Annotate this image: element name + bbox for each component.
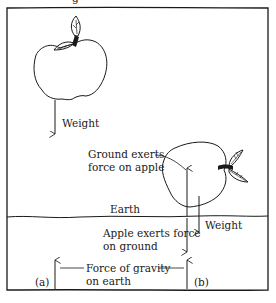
gravity-label-line1: Force of gravity — [86, 262, 170, 275]
weight-label-top: Weight — [62, 117, 99, 130]
falling-apple — [34, 16, 107, 100]
ground-exerts-label-line1: Ground exerts — [88, 148, 164, 161]
ground-line — [7, 216, 268, 218]
weight-label-right: Weight — [205, 219, 242, 232]
resting-apple — [162, 142, 248, 207]
top-caption-fragment: g — [72, 0, 79, 5]
apple-exerts-label-line1: Apple exerts force — [103, 227, 201, 240]
ground-exerts-label-line2: force on apple — [88, 161, 164, 174]
apple-earth-forces-diagram: g Weight Ground exerts force on apple Ea… — [0, 0, 276, 303]
apple-exerts-label-line2: on ground — [103, 240, 158, 253]
earth-label: Earth — [110, 203, 140, 216]
gravity-label-line2: on earth — [86, 275, 131, 288]
panel-label-b: (b) — [194, 276, 209, 289]
panel-label-a: (a) — [35, 276, 49, 289]
